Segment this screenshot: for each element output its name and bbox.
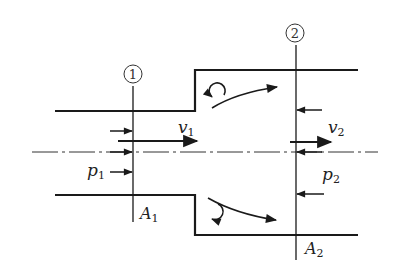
- upper-recirculation: [209, 83, 277, 108]
- velocity-label-1: v1: [178, 117, 195, 139]
- lower-streamline-arrow: [208, 198, 276, 220]
- lower-recirculation: [208, 198, 276, 220]
- sudden-expansion-diagram: 1 v1 p1 A1 2 v2 p2: [0, 0, 402, 271]
- pressure-label-1: p1: [87, 160, 105, 182]
- section-2-marker-label: 2: [291, 26, 299, 41]
- upper-streamline-arrow: [212, 87, 277, 108]
- pressure-label-2: p2: [322, 164, 340, 186]
- section-1-marker-label: 1: [129, 67, 137, 82]
- upper-eddy-icon: [209, 83, 225, 97]
- upper-wall: [55, 70, 358, 111]
- velocity-label-2: v2: [328, 117, 345, 139]
- section-1: 1 v1 p1 A1: [87, 65, 197, 225]
- lower-eddy-icon: [212, 204, 223, 220]
- section-2: 2 v2 p2 A2: [286, 24, 345, 260]
- area-label-2: A2: [303, 239, 324, 260]
- lower-wall: [55, 195, 358, 235]
- area-label-1: A1: [138, 204, 159, 225]
